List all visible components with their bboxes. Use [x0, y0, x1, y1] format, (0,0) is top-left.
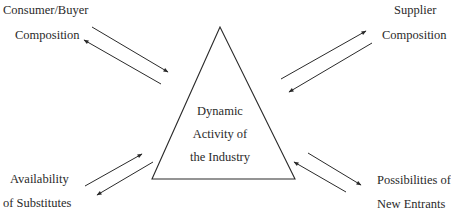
node-entrants-line-2: New Entrants — [377, 197, 445, 212]
arrow-substitutes-to-industry — [85, 154, 142, 186]
arrow-entrants-to-industry — [294, 162, 346, 192]
node-substitutes-line-2: of Substitutes — [3, 196, 71, 211]
node-substitutes-line-1: Availability — [10, 172, 69, 187]
node-supplier-line-2: Composition — [382, 28, 447, 43]
node-entrants-line-1: Possibilities of — [377, 173, 451, 188]
center-line-3: the Industry — [170, 146, 270, 169]
center-line-2: Activity of — [170, 123, 270, 146]
center-line-1: Dynamic — [170, 100, 270, 123]
arrow-industry-to-entrants — [308, 153, 361, 185]
node-buyer-line-1: Consumer/Buyer — [3, 3, 88, 18]
arrow-industry-to-buyer — [84, 40, 161, 84]
arrow-industry-to-substitutes — [97, 162, 153, 195]
node-supplier-line-1: Supplier — [394, 3, 436, 18]
center-node: Dynamic Activity of the Industry — [170, 100, 270, 169]
arrow-buyer-to-industry — [92, 27, 168, 72]
node-buyer-line-2: Composition — [15, 28, 80, 43]
